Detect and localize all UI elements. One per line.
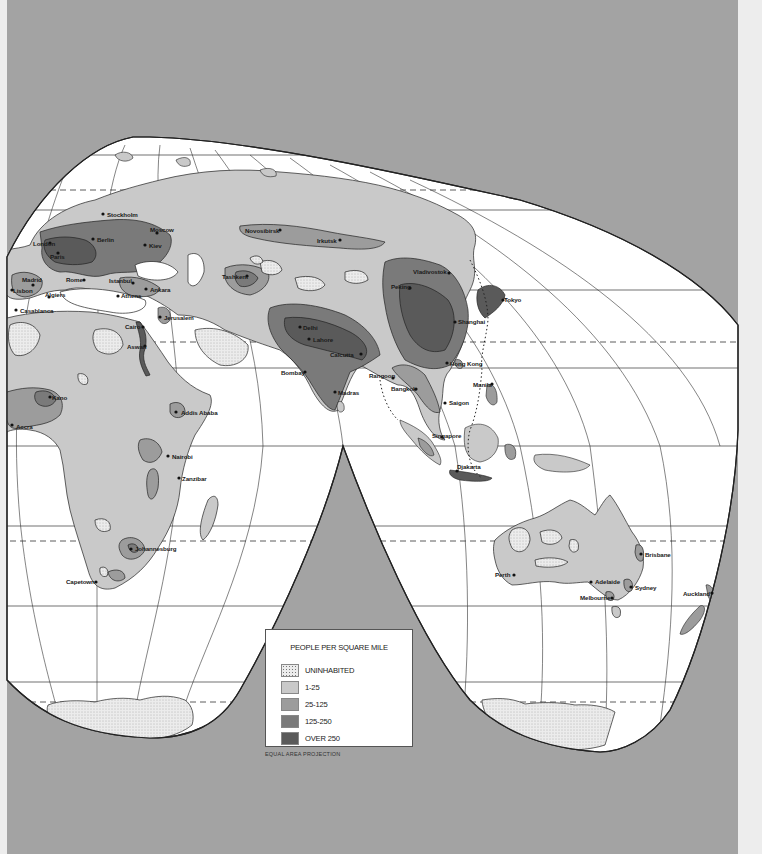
city-label: Tashkent bbox=[222, 273, 248, 280]
city-dot-icon bbox=[610, 596, 613, 599]
city-manila: Manila bbox=[473, 381, 494, 388]
city-label: Auckland bbox=[683, 590, 710, 597]
legend-label: UNINHABITED bbox=[305, 666, 354, 675]
city-label: Algiers bbox=[45, 291, 66, 298]
city-lisbon: Lisbon bbox=[10, 287, 33, 294]
legend-label: 1-25 bbox=[305, 683, 319, 692]
city-label: Madras bbox=[338, 389, 360, 396]
legend-swatch bbox=[281, 698, 299, 711]
city-label: Singapore bbox=[432, 432, 462, 439]
city-label: Kano bbox=[52, 394, 67, 401]
city-dot-icon bbox=[338, 238, 341, 241]
legend-title: PEOPLE PER SQUARE MILE bbox=[266, 643, 412, 652]
city-label: Cairo bbox=[125, 323, 141, 330]
city-dot-icon bbox=[445, 361, 448, 364]
city-adelaide: Adelaide bbox=[589, 578, 620, 585]
city-label: Madrid bbox=[22, 276, 42, 283]
legend: PEOPLE PER SQUARE MILE UNINHABITED 1-25 … bbox=[265, 629, 413, 747]
city-dot-icon bbox=[589, 580, 592, 583]
city-label: Rome bbox=[66, 276, 83, 283]
city-dot-icon bbox=[82, 278, 85, 281]
city-kano: Kano bbox=[48, 394, 67, 401]
city-london: London bbox=[33, 240, 55, 247]
city-label: Aswan bbox=[127, 343, 147, 350]
city-label: Peking bbox=[391, 283, 411, 290]
city-dot-icon bbox=[333, 390, 336, 393]
city-dot-icon bbox=[710, 591, 713, 594]
city-brisbane: Brisbane bbox=[639, 551, 671, 558]
city-label: Istanbul bbox=[109, 277, 132, 284]
city-label: Casablanca bbox=[20, 307, 54, 314]
city-label: Jerusalem bbox=[164, 314, 194, 321]
city-dot-icon bbox=[629, 585, 632, 588]
city-dot-icon bbox=[307, 337, 310, 340]
city-label: Athens bbox=[121, 292, 142, 299]
city-label: Berlin bbox=[97, 236, 114, 243]
city-label: Accra bbox=[16, 423, 33, 430]
city-paris: Paris bbox=[50, 251, 65, 260]
city-label: Hong Kong bbox=[450, 360, 483, 367]
city-label: Manila bbox=[473, 381, 492, 388]
legend-item-125-250: 125-250 bbox=[281, 714, 331, 728]
city-label: Nairobi bbox=[172, 453, 193, 460]
city-tashkent: Tashkent bbox=[222, 273, 249, 280]
legend-label: OVER 250 bbox=[305, 734, 340, 743]
city-label: Bombay bbox=[281, 369, 305, 376]
city-rangoon: Rangoon bbox=[369, 372, 395, 380]
city-label: Tokyo bbox=[504, 296, 522, 303]
city-melbourne: Melbourne bbox=[580, 594, 614, 601]
city-label: Addis Ababa bbox=[181, 409, 218, 416]
city-label: Sydney bbox=[635, 584, 657, 591]
city-dot-icon bbox=[639, 552, 642, 555]
city-dot-icon bbox=[14, 308, 17, 311]
city-label: Moscow bbox=[150, 226, 174, 233]
city-label: Irkutsk bbox=[317, 237, 337, 244]
city-label: Shanghai bbox=[458, 318, 485, 325]
legend-item-25-125: 25-125 bbox=[281, 697, 327, 711]
city-dot-icon bbox=[174, 410, 177, 413]
city-stockholm: Stockholm bbox=[101, 211, 138, 218]
city-dot-icon bbox=[94, 580, 97, 583]
city-bangkok: Bangkok bbox=[391, 385, 418, 392]
city-label: Djakarta bbox=[457, 463, 481, 470]
city-istanbul: Istanbul bbox=[109, 277, 135, 285]
city-novosibirsk: Novosibirsk bbox=[245, 227, 282, 234]
city-label: London bbox=[33, 240, 55, 247]
legend-label: 25-125 bbox=[305, 700, 327, 709]
city-label: Johannesburg bbox=[135, 545, 177, 552]
city-zanzibar: Zanzibar bbox=[177, 475, 207, 482]
city-tokyo: Tokyo bbox=[501, 296, 521, 303]
city-label: Adelaide bbox=[595, 578, 621, 585]
city-label: Stockholm bbox=[107, 211, 138, 218]
city-label: Perth bbox=[495, 571, 511, 578]
city-dot-icon bbox=[116, 294, 119, 297]
legend-item-1-25: 1-25 bbox=[281, 680, 319, 694]
city-dot-icon bbox=[447, 271, 450, 274]
legend-item-uninhabited: UNINHABITED bbox=[281, 663, 354, 677]
city-singapore: Singapore bbox=[432, 432, 462, 439]
city-bombay: Bombay bbox=[281, 369, 307, 376]
city-johannesburg: Johannesburg bbox=[129, 545, 176, 552]
city-dot-icon bbox=[10, 423, 13, 426]
city-peking: Peking bbox=[391, 283, 412, 290]
city-label: Delhi bbox=[303, 324, 318, 331]
city-label: Brisbane bbox=[645, 551, 671, 558]
city-label: Capetown bbox=[66, 578, 95, 585]
city-label: Zanzibar bbox=[182, 475, 207, 482]
city-capetown: Capetown bbox=[66, 578, 98, 585]
sri-lanka bbox=[337, 401, 344, 412]
city-dot-icon bbox=[166, 454, 169, 457]
city-shanghai: Shanghai bbox=[453, 318, 485, 325]
city-algiers: Algiers bbox=[45, 291, 66, 299]
city-label: Novosibirsk bbox=[245, 227, 280, 234]
city-rome: Rome bbox=[66, 276, 86, 283]
legend-item-over-250: OVER 250 bbox=[281, 731, 340, 745]
city-dot-icon bbox=[101, 212, 104, 215]
city-dot-icon bbox=[177, 476, 180, 479]
city-dot-icon bbox=[144, 287, 147, 290]
city-aswan: Aswan bbox=[127, 343, 147, 350]
legend-swatch-dotted bbox=[281, 664, 299, 677]
city-madras: Madras bbox=[333, 389, 359, 396]
city-label: Lisbon bbox=[13, 287, 33, 294]
city-label: Rangoon bbox=[369, 372, 395, 379]
